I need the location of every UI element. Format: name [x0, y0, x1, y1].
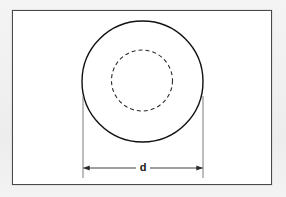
diameter-label: d [140, 162, 147, 173]
outer-circle [82, 21, 203, 142]
hidden-inner-circle [112, 50, 173, 111]
figure-page: d [0, 0, 286, 197]
